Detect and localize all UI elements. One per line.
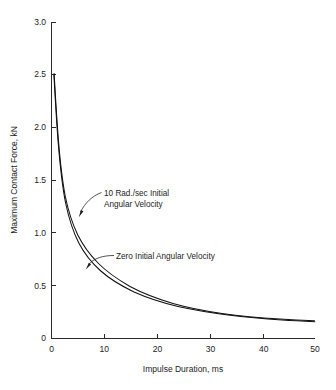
y-tick-label: 1.5 — [34, 175, 46, 185]
y-tick-label: 0 — [41, 333, 46, 343]
annotation-10-rad-line2: Angular Velocity — [104, 200, 164, 209]
annotation-leader-line — [81, 193, 102, 213]
annotation-arrowhead — [86, 263, 91, 270]
x-axis-title: Impulse Duration, ms — [143, 364, 223, 374]
y-tick-label: 2.5 — [34, 69, 46, 79]
annotation-10-rad-line1: 10 Rad./sec Initial — [104, 189, 169, 198]
y-tick-labels: 0 0.5 1.0 1.5 2.0 2.5 3.0 — [34, 17, 46, 343]
annotation-zero-line1: Zero Initial Angular Velocity — [116, 252, 216, 261]
x-tick-label: 20 — [153, 344, 163, 354]
x-tick-label: 30 — [206, 344, 216, 354]
annotation-arrowhead — [79, 210, 84, 217]
y-tick-label: 1.0 — [34, 228, 46, 238]
x-tick-label: 10 — [99, 344, 109, 354]
y-tick-label: 2.0 — [34, 122, 46, 132]
annotation-zero-angular-velocity: Zero Initial Angular Velocity — [86, 252, 216, 270]
curve-zero-angular-velocity — [54, 75, 315, 322]
x-tick-label: 50 — [310, 344, 320, 354]
chart-figure: 0 0.5 1.0 1.5 2.0 2.5 3.0 0 10 20 30 40 … — [0, 0, 336, 390]
axis-lines — [52, 22, 316, 339]
x-tick-label: 0 — [49, 344, 54, 354]
x-tick-label: 40 — [259, 344, 269, 354]
y-tick-label: 3.0 — [34, 17, 46, 27]
chart-plot-area: 0 0.5 1.0 1.5 2.0 2.5 3.0 0 10 20 30 40 … — [0, 0, 336, 390]
annotation-10-rad-per-sec: 10 Rad./sec Initial Angular Velocity — [79, 189, 169, 217]
x-tick-labels: 0 10 20 30 40 50 — [49, 344, 320, 354]
y-axis-title: Maximum Contact Force, kN — [9, 126, 19, 234]
x-tick-marks — [104, 334, 264, 339]
y-tick-label: 0.5 — [34, 281, 46, 291]
y-tick-marks — [52, 22, 57, 339]
